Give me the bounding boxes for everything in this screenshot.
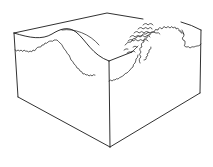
block-diagram: Line drawing of a tissue block showing a… bbox=[0, 0, 213, 167]
wavy-boundary-left bbox=[15, 40, 95, 76]
block-outline bbox=[14, 13, 201, 147]
surface-ridge bbox=[14, 29, 109, 61]
scaly-patch bbox=[124, 24, 160, 54]
